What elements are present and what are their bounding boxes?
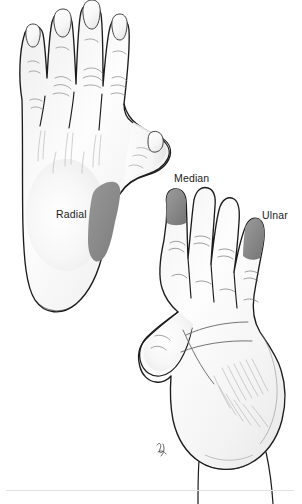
hand-nerve-distribution-figure: Radial Median Ulnar — [0, 0, 302, 504]
hand-illustration — [0, 0, 302, 504]
forearm-right-edge — [266, 452, 273, 504]
forearm-left-edge — [198, 461, 199, 504]
label-radial-nerve: Radial — [56, 209, 87, 220]
label-median-nerve: Median — [174, 173, 209, 184]
nail-middle — [83, 0, 100, 29]
nail-ring — [54, 9, 71, 37]
palmar-hand-view — [139, 188, 285, 504]
label-ulnar-nerve: Ulnar — [262, 210, 288, 221]
nail-little — [26, 24, 40, 47]
bottom-divider-rule — [6, 490, 294, 491]
nail-index — [112, 14, 127, 40]
dorsal-thumb-nail — [148, 131, 163, 152]
dorsal-hand-view — [20, 0, 171, 312]
artist-signature-mark — [157, 443, 166, 456]
median-nerve-shaded-area — [166, 189, 186, 225]
